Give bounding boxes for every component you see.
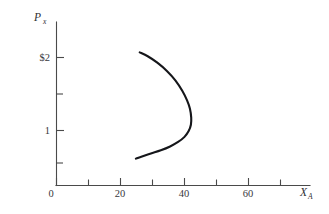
y-tick-label-1: 1 — [45, 125, 50, 136]
x-tick-label-20: 20 — [115, 188, 126, 199]
demand-curve-line — [136, 52, 191, 158]
x-tick-label-0: 0 — [48, 188, 53, 199]
x-axis-title: X — [299, 186, 308, 198]
x-tick-label-60: 60 — [243, 188, 254, 199]
y-tick-label-2: $2 — [40, 52, 51, 63]
demand-curve-chart: 0 20 40 60 1 $2 P x X A — [0, 0, 329, 214]
y-axis-title-subscript: x — [42, 17, 47, 26]
x-axis-title-subscript: A — [307, 192, 313, 201]
figure-container: 0 20 40 60 1 $2 P x X A — [0, 0, 329, 214]
x-tick-label-40: 40 — [179, 188, 190, 199]
y-axis-title: P — [33, 11, 41, 23]
